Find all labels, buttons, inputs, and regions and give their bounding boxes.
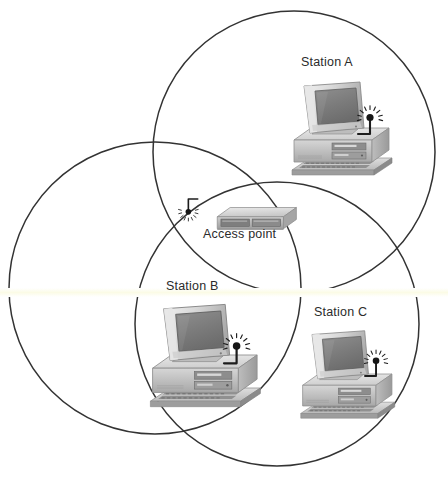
workstation-icon <box>150 304 260 406</box>
label-station-b: Station B <box>166 279 219 293</box>
label-station-a: Station A <box>301 55 353 69</box>
node-station-a[interactable] <box>292 82 392 175</box>
diagram-canvas: Station A Access point Station B Station… <box>0 0 448 479</box>
wireless-antenna-icon <box>179 199 199 221</box>
node-station-c[interactable] <box>301 331 395 418</box>
node-access-point[interactable] <box>179 199 297 230</box>
label-station-c: Station C <box>314 305 367 319</box>
label-access-point: Access point <box>203 227 276 241</box>
workstation-icon <box>292 82 392 175</box>
node-station-b[interactable] <box>150 304 260 406</box>
workstation-icon <box>301 331 395 418</box>
